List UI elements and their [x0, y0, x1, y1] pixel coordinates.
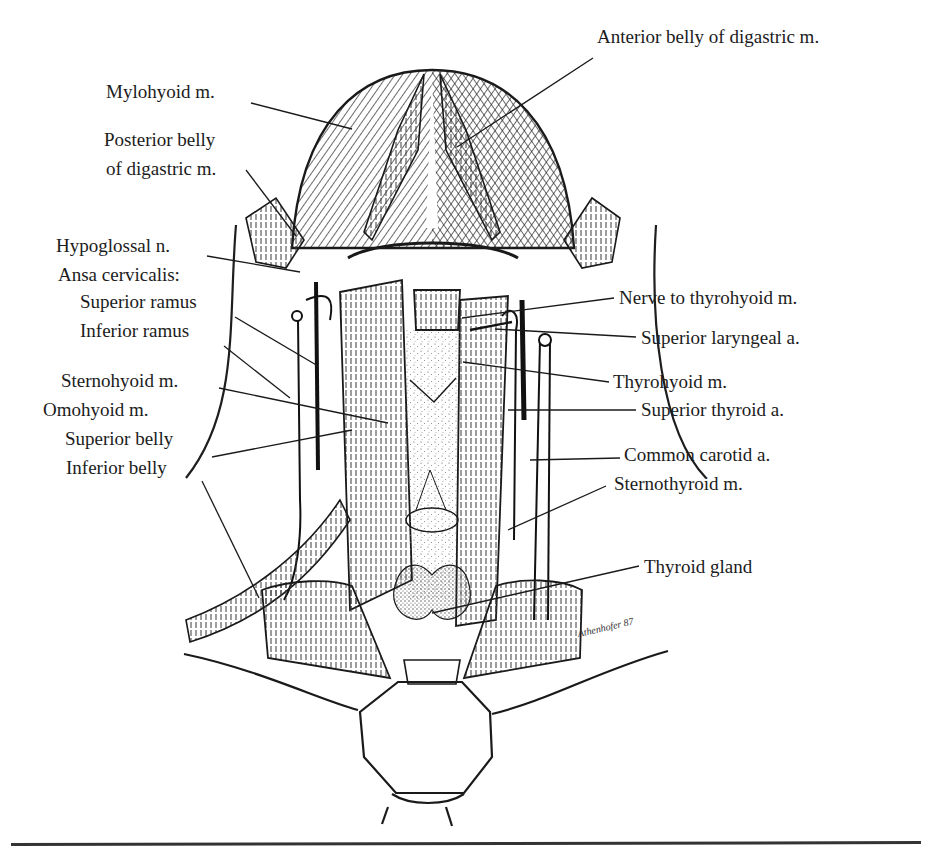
label-common-carotid: Common carotid a.: [624, 444, 770, 466]
leader-line-common-carotid: [530, 458, 620, 460]
label-superior-belly: Superior belly: [65, 428, 173, 450]
label-superior-thyroid: Superior thyroid a.: [641, 399, 784, 421]
label-nerve-to-thyrohyoid: Nerve to thyrohyoid m.: [619, 287, 797, 309]
label-posterior-belly-digastric-line2: of digastric m.: [106, 158, 216, 180]
leader-line-inferior-ramus: [224, 346, 290, 398]
label-hypoglossal: Hypoglossal n.: [56, 235, 170, 257]
label-ansa-cervicalis: Ansa cervicalis:: [58, 264, 180, 286]
leader-line-inferior-belly: [202, 481, 259, 598]
clavicles-sternum: [184, 651, 668, 826]
label-sternohyoid: Sternohyoid m.: [61, 370, 178, 392]
label-mylohyoid: Mylohyoid m.: [106, 81, 215, 103]
label-superior-laryngeal: Superior laryngeal a.: [641, 327, 800, 349]
leader-line-superior-ramus: [235, 317, 318, 366]
label-inferior-ramus: Inferior ramus: [80, 320, 189, 342]
label-posterior-belly-digastric-line1: Posterior belly: [104, 129, 215, 151]
label-omohyoid: Omohyoid m.: [43, 399, 149, 421]
label-anterior-belly-digastric: Anterior belly of digastric m.: [597, 26, 819, 48]
mylohyoid-dome: [292, 70, 574, 248]
label-thyrohyoid: Thyrohyoid m.: [613, 371, 727, 393]
anatomical-figure: Mylohyoid m. Posterior belly of digastri…: [0, 0, 932, 868]
label-superior-ramus: Superior ramus: [80, 291, 197, 313]
leader-line-sternothyroid: [508, 486, 606, 530]
trachea: [404, 660, 460, 684]
label-sternothyroid: Sternothyroid m.: [614, 473, 743, 495]
leader-line-superior-belly: [212, 430, 352, 457]
label-inferior-belly: Inferior belly: [66, 457, 167, 479]
label-thyroid-gland: Thyroid gland: [644, 556, 752, 578]
